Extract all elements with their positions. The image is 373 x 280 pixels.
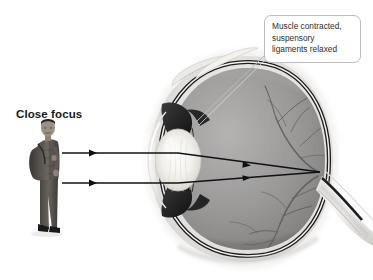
person-legs: [40, 176, 58, 230]
callout-line-3: ligaments relaxed: [272, 44, 354, 56]
callout-line-2: suspensory: [272, 33, 354, 45]
lens-highlight: [164, 137, 178, 159]
person-hand-upper: [51, 155, 56, 161]
close-focus-label: Close focus: [16, 108, 82, 120]
person-shoe-right: [49, 226, 60, 233]
annotation-callout-box: Muscle contracted, suspensory ligaments …: [264, 15, 361, 63]
ray-arrowhead-upper-left: [89, 150, 97, 157]
ray-arrowhead-lower-left: [89, 180, 97, 187]
callout-line-1: Muscle contracted,: [272, 21, 354, 33]
person-hand: [53, 170, 59, 177]
eye-illustration: [146, 48, 373, 270]
figure-root: Close focus Muscle contracted, suspensor…: [0, 0, 373, 280]
person-figure: [29, 119, 63, 237]
